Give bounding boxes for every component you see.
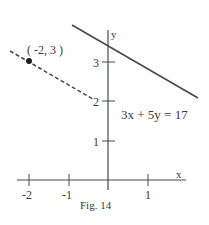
solid-line-3x-5y-17 bbox=[72, 25, 198, 98]
y-tick-label-3: 3 bbox=[93, 56, 99, 70]
y-axis-label: y bbox=[111, 28, 117, 40]
y-tick-label-1: 1 bbox=[93, 135, 99, 149]
point-label: ( -2, 3 ) bbox=[27, 43, 63, 57]
equation-label: 3x + 5y = 17 bbox=[121, 107, 188, 122]
figure-caption: Fig. 14 bbox=[80, 199, 112, 211]
coordinate-diagram: ( -2, 3 ) y x 3 2 1 -2 -1 1 3x + 5y = 17… bbox=[0, 0, 209, 225]
x-axis-label: x bbox=[176, 168, 182, 180]
y-tick-label-2: 2 bbox=[93, 95, 99, 109]
dashed-parallel-line bbox=[10, 51, 93, 99]
x-tick-label-neg2: -2 bbox=[22, 188, 32, 202]
x-tick-label-1: 1 bbox=[145, 188, 151, 202]
x-tick-label-neg1: -1 bbox=[62, 188, 72, 202]
point-neg2-3 bbox=[26, 58, 32, 64]
